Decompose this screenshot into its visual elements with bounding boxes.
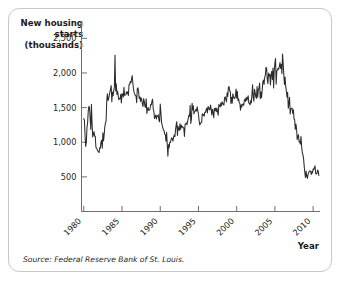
x-axis-tick-label: 2010 [291,216,313,238]
x-axis-tick-label: 1995 [176,216,198,238]
chart-container: New housing starts (thousands) 2,5002,00… [9,9,333,273]
x-axis-tick-label: 1990 [138,216,160,238]
y-axis-tick-label: 1,000 [53,137,76,147]
y-axis-tick-label: 500 [61,172,77,182]
y-axis-title-line-1: New housing [21,18,83,28]
y-axis-tick-label: 2,500 [53,33,76,43]
x-axis-tick-label: 2005 [253,216,275,238]
x-axis-title: Year [297,241,320,251]
y-axis-tick-label: 2,000 [53,68,76,78]
series-new-housing-starts [84,54,319,178]
figure-panel: New housing starts (thousands) 2,5002,00… [8,8,332,272]
x-axis-tick-label: 1980 [61,216,83,238]
source-note: Source: Federal Reserve Bank of St. Loui… [23,255,184,264]
x-axis-tick-label: 1985 [100,216,122,238]
x-axis-tick-group: 1980198519901995200020052010 [61,206,313,238]
housing-starts-line-chart: New housing starts (thousands) 2,5002,00… [9,9,333,273]
y-axis-tick-label: 1,500 [53,103,76,113]
x-axis-tick-label: 2000 [214,216,236,238]
